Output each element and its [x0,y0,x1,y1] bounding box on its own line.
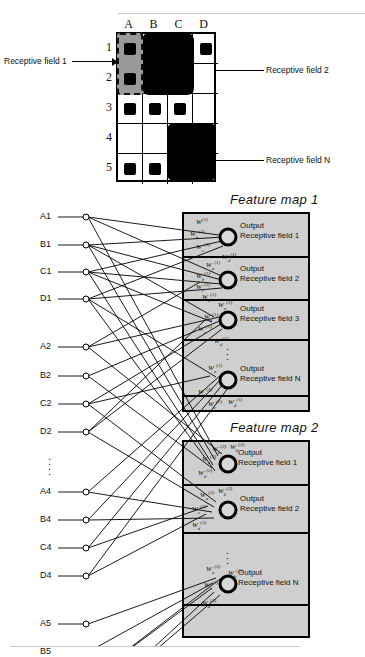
weight-label-fm1-n1-d: Wd(1) [222,252,236,263]
fm1-output-2-label: Output Receptive field 2 [240,264,299,283]
receptive-field-2-blob [142,33,194,95]
weight-label-fm2-n1-d: Wd(2) [198,468,212,479]
fm1-output-N-line2: Receptive field N [240,374,300,383]
grid-cell-B4 [143,124,168,154]
weight-label-fm1-n1-a: W(1) [196,217,208,226]
grid-cell-A3 [118,94,143,124]
receptive-field-N-label: Receptive field N [266,155,330,165]
input-label-D1: D1 [40,293,52,303]
grid-row-header-5: 5 [96,160,112,175]
weight-label-fm1-n2-b: Wb(1) [196,271,210,282]
pixel-grid [116,32,216,182]
fm2-output-1-label: Output Receptive field 1 [238,448,297,467]
grid-cell-D3 [193,94,218,124]
input-label-A4: A4 [40,486,51,496]
grid-cell-B5 [143,154,168,184]
input-label-C2: C2 [40,398,52,408]
input-label-C1: C1 [40,266,52,276]
grid-cell-D2 [193,64,218,94]
weight-label-fm1-n3-c: Wc(1) [198,324,212,335]
receptive-field-1-arrow-icon [112,58,118,66]
grid-column-header-D: D [191,17,216,32]
receptive-field-2-label: Receptive field 2 [266,65,329,75]
weight-label-fm2-n1-b: Wb(2) [230,442,244,453]
network-diagram: Feature map 1 Feature map 2 [0,192,365,647]
weight-label-fm2-n2-b: Wb(2) [218,486,232,497]
input-vertical-ellipsis: .... [48,454,51,474]
weight-label-fm2-nN-a: Wa(2) [206,564,220,575]
weight-label-fm1-n2-a: Wa(1) [206,260,220,271]
input-label-B5: B5 [40,646,51,656]
weight-label-fm1-n3-a: Wa(1) [218,300,232,311]
fm1-output-3-label: Output Receptive field 3 [240,304,299,323]
weight-label-fm2-n2-a: Wa(2) [200,490,214,501]
grid-column-header-B: B [141,17,166,32]
grid-cell-A5 [118,154,143,184]
weight-label-fm1-nN-d: Wd(1) [228,397,242,408]
fm1-output-3-line2: Receptive field 3 [240,314,299,323]
fm1-output-N-label: Output Receptive field N [240,364,300,383]
receptive-field-grid-panel: A B C D 1 2 3 4 5 [0,0,365,192]
grid-row-header-1: 1 [96,40,112,55]
fm2-output-2-line2: Receptive field 2 [240,504,299,513]
fm2-output-2-line1: Output [240,494,264,503]
weight-label-fm2-nN-b: Wb(2) [228,568,242,579]
input-label-C4: C4 [40,542,52,552]
fm1-output-2-line1: Output [240,264,264,273]
weight-label-fm1-n3-d: Wd(1) [214,336,228,347]
receptive-field-N-leader-line [216,160,264,161]
weight-label-fm2-n2-c: Wc(2) [192,504,206,515]
fm1-output-N-line1: Output [240,364,264,373]
grid-row-header-3: 3 [96,100,112,115]
receptive-field-N-blob [167,123,216,181]
weight-label-fm1-nN-c: Wc(1) [208,399,222,410]
weight-label-fm2-n2-d: Wd(2) [192,520,206,531]
receptive-field-1-label: Receptive field 1 [4,56,67,66]
grid-cell-A2-mark [124,73,136,85]
weight-label-fm2-nN-d: Wd(2) [202,598,216,609]
input-label-B1: B1 [40,239,51,249]
fm2-output-N-line2: Receptive field N [238,578,298,587]
fm1-output-1-label: Output Receptive field 1 [240,221,299,240]
weight-label-fm1-n2-d: Wd(1) [202,292,216,303]
grid-column-header-C: C [166,17,191,32]
input-label-A2: A2 [40,341,51,351]
weight-label-fm2-nN-c: Wc(2) [204,580,218,591]
grid-cell-C3 [168,94,193,124]
weight-label-fm1-n1-c: Wc(1) [196,242,210,253]
input-label-B2: B2 [40,370,51,380]
grid-cell-A1-mark [124,43,136,55]
connections-layer [0,192,365,647]
weight-label-fm1-nN-b: Wb(1) [198,387,212,398]
weight-label-fm2-n1-c: Wc(2) [202,454,216,465]
receptive-field-1-leader-line [72,61,116,62]
fm2-output-2-label: Output Receptive field 2 [240,494,299,513]
fm1-output-1-line1: Output [240,221,264,230]
weight-label-fm1-n3-b: Wb(1) [204,312,218,323]
grid-cell-D1 [193,34,218,64]
weight-label-fm1-n1-b: Wb(1) [190,229,204,240]
grid-cell-A4 [118,124,143,154]
input-label-D4: D4 [40,570,52,580]
weight-label-fm1-nN-a: Wa(1) [208,363,222,374]
bottom-divider-rule [10,646,300,647]
fm1-output-1-line2: Receptive field 1 [240,231,299,240]
fm1-output-2-line2: Receptive field 2 [240,274,299,283]
fm2-output-1-line2: Receptive field 1 [238,458,297,467]
grid-cell-B3 [143,94,168,124]
input-label-B4: B4 [40,514,51,524]
grid-row-header-4: 4 [96,130,112,145]
receptive-field-2-leader-line [216,70,264,71]
fm2-output-N-label: Output Receptive field N [238,568,298,587]
fm2-vertical-ellipsis: ... [226,548,229,563]
grid-column-header-A: A [116,17,141,32]
fm1-output-3-line1: Output [240,304,264,313]
grid-row-header-2: 2 [96,70,112,85]
input-label-D2: D2 [40,426,52,436]
input-label-A5: A5 [40,618,51,628]
input-label-A1: A1 [40,211,51,221]
